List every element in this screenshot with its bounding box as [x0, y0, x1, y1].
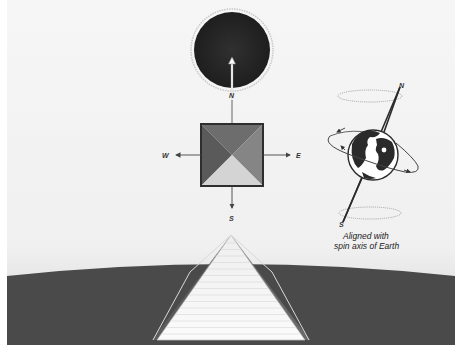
- south-label: S: [229, 215, 234, 222]
- caption-line-1: Aligned with: [342, 231, 389, 241]
- bottom-border: [0, 345, 458, 350]
- axis-south-label: S: [339, 221, 344, 228]
- diagram-canvas: N W E S: [0, 0, 458, 350]
- caption-line-2: spin axis of Earth: [334, 241, 399, 251]
- east-label: E: [296, 152, 301, 159]
- globe-icon: [348, 130, 398, 180]
- pyramid-plan-square-icon: [201, 124, 263, 186]
